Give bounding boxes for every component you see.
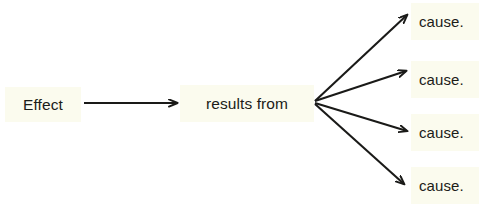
- edge-middle-to-cause-1: [315, 15, 407, 101]
- node-results-from-label: results from: [206, 96, 288, 112]
- node-cause-2: cause.: [411, 61, 479, 98]
- node-cause-1: cause.: [411, 3, 479, 40]
- edge-middle-to-cause-3: [315, 103, 407, 131]
- edge-middle-to-cause-4: [315, 104, 404, 184]
- diagram-canvas: Effect results from cause. cause. cause.…: [0, 0, 490, 208]
- node-cause-3-label: cause.: [419, 125, 464, 140]
- node-cause-2-label: cause.: [419, 72, 464, 87]
- edge-middle-to-cause-2: [315, 71, 406, 101]
- node-results-from: results from: [180, 85, 314, 122]
- node-cause-4-label: cause.: [419, 178, 464, 193]
- node-cause-3: cause.: [411, 114, 479, 151]
- node-effect-label: Effect: [23, 97, 63, 113]
- node-cause-1-label: cause.: [419, 14, 464, 29]
- node-cause-4: cause.: [411, 167, 479, 204]
- node-effect: Effect: [5, 87, 81, 122]
